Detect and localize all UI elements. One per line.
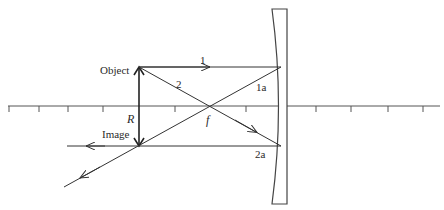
focal-point-label: f [206,113,211,127]
object-label: Object [100,64,129,76]
ray-1-label: 1 [200,54,206,66]
principal-axis [8,106,440,112]
center-of-curvature-label: R [126,112,135,126]
image-label: Image [102,128,130,140]
ray-1a [64,67,281,187]
ray-2-label: 2 [176,78,182,90]
ray-diagram: Object Image 1 2 1a 2a f R [0,0,444,210]
ray-1a-label: 1a [256,81,267,93]
ray-2a-label: 2a [255,148,266,160]
axis-ticks [9,106,423,112]
image-arrow [134,106,144,146]
object-arrow [134,67,144,106]
